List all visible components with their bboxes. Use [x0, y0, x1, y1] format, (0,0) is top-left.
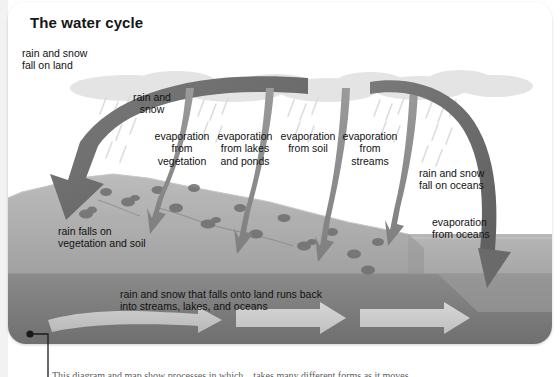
- label-rain-falls-on-vegetation-and-soil: rain falls on vegetation and soil: [58, 225, 146, 250]
- label-evaporation-from-vegetation: evaporation from vegetation: [151, 130, 213, 167]
- figure-caption: This diagram and map show processes in w…: [52, 370, 552, 377]
- page-title: The water cycle: [30, 14, 143, 31]
- label-evaporation-from-streams: evaporation from streams: [339, 130, 401, 167]
- label-evaporation-from-lakes-and-ponds: evaporation from lakes and ponds: [213, 130, 277, 167]
- page-background: The water cycle rain and snow fall on la…: [0, 0, 560, 377]
- label-evaporation-from-soil: evaporation from soil: [276, 130, 340, 155]
- label-runoff-to-streams-lakes-oceans: rain and snow that falls onto land runs …: [120, 288, 322, 313]
- label-rain-snow-fall-on-oceans: rain and snow fall on oceans: [419, 167, 519, 192]
- label-evaporation-from-oceans: evaporation from oceans: [432, 216, 522, 241]
- figure-card: The water cycle rain and snow fall on la…: [8, 2, 552, 344]
- label-rain-snow-fall-on-land: rain and snow fall on land: [22, 47, 87, 72]
- label-rain-and-snow: rain and snow: [121, 91, 183, 116]
